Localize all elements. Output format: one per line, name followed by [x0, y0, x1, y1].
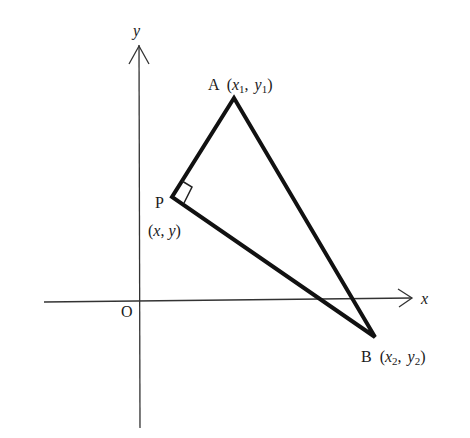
diagram-svg: y x O A (x1, y1) P (x, y) B (x2, y2): [0, 0, 470, 438]
right-angle-marker: [182, 181, 192, 203]
svg-text:P: P: [155, 194, 164, 211]
point-A-label: A (x1, y1): [208, 76, 273, 95]
svg-text:B (x2, y2): B (x2, y2): [361, 348, 426, 367]
y-axis-label: y: [131, 22, 141, 40]
svg-text:(x, y): (x, y): [148, 222, 181, 240]
svg-text:A (x1, y1): A (x1, y1): [208, 76, 273, 95]
point-B-label: B (x2, y2): [361, 348, 426, 367]
origin-label: O: [121, 303, 133, 320]
coordinate-diagram: y x O A (x1, y1) P (x, y) B (x2, y2): [0, 0, 470, 438]
x-axis-label: x: [420, 290, 428, 307]
x-axis: [44, 298, 412, 302]
triangle-APB: [172, 98, 375, 337]
y-axis: [139, 45, 140, 428]
